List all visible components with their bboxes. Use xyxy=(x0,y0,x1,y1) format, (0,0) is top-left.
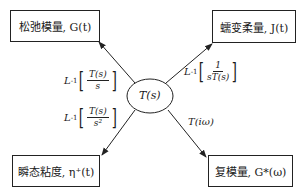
edge-label-top-left: L-1 [ T(s)s ] xyxy=(64,69,118,92)
box-complex-modulus: 复模量, G*(ω) xyxy=(208,155,293,187)
laplace-inverse: L xyxy=(64,75,71,86)
box-transient-viscosity: 瞬态粘度, η⁺(t) xyxy=(12,155,100,187)
edge-label-bottom-left: L-1 [ T(s)s² ] xyxy=(64,106,118,129)
edge-label-top-right: L-1 [ 1sT(s) ] xyxy=(184,60,239,83)
box-relaxation-modulus: 松弛模量, G(t) xyxy=(10,10,100,42)
center-label: T(s) xyxy=(139,89,161,102)
edge-label-bottom-right: T(iω) xyxy=(188,116,214,127)
box-creep-compliance: 蠕变柔量, J(t) xyxy=(212,10,296,43)
